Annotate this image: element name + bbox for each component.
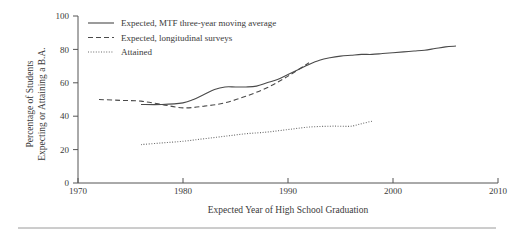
y-axis-tick-labels: 020406080100 bbox=[56, 11, 70, 188]
y-tick-label: 40 bbox=[60, 111, 70, 121]
series-line bbox=[141, 121, 372, 144]
legend-label: Expected, MTF three-year moving average bbox=[121, 18, 276, 28]
y-axis-title-line1: Percentage of Students bbox=[25, 60, 35, 147]
x-tick-label: 1970 bbox=[69, 186, 88, 196]
series-layer bbox=[99, 46, 456, 145]
y-tick-label: 20 bbox=[60, 145, 70, 155]
x-axis-title: Expected Year of High School Graduation bbox=[208, 205, 369, 215]
legend-label: Expected, longitudinal surveys bbox=[121, 33, 233, 43]
x-axis-tick-labels: 19701980199020002010 bbox=[69, 186, 508, 196]
chart-figure: 020406080100 19701980199020002010 Expect… bbox=[0, 0, 514, 233]
x-tick-label: 2010 bbox=[489, 186, 508, 196]
y-tick-label: 100 bbox=[56, 11, 70, 21]
chart-svg: 020406080100 19701980199020002010 Expect… bbox=[0, 0, 514, 233]
x-tick-label: 1980 bbox=[174, 186, 193, 196]
y-axis-title-line2: Expecting or Attaining a B.A. bbox=[37, 47, 47, 160]
series-line bbox=[99, 63, 309, 108]
legend-label: Attained bbox=[121, 47, 152, 57]
y-tick-label: 80 bbox=[60, 45, 70, 55]
chart-legend: Expected, MTF three-year moving averageE… bbox=[88, 18, 276, 57]
x-axis-ticks bbox=[78, 178, 498, 183]
y-tick-label: 60 bbox=[60, 78, 70, 88]
x-tick-label: 2000 bbox=[384, 186, 403, 196]
x-tick-label: 1990 bbox=[279, 186, 298, 196]
y-axis-ticks bbox=[73, 16, 78, 183]
series-line bbox=[141, 46, 456, 105]
